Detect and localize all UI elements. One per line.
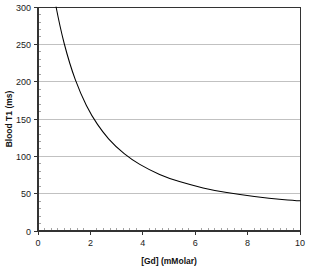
y-tick-label-200: 200: [16, 77, 31, 87]
x-tick-label-0: 0: [35, 238, 40, 248]
x-tick-label-4: 4: [140, 238, 145, 248]
y-axis-title: Blood T1 (ms): [4, 91, 14, 148]
x-tick-label-6: 6: [193, 238, 198, 248]
y-tick-label-250: 250: [16, 40, 31, 50]
blood-t1-vs-gd-chart: 300 250 200 150 100 50 0 0 2 4 6 8 10 [G…: [0, 0, 312, 271]
x-axis-title: [Gd] (mMolar): [141, 256, 197, 266]
x-tick-label-2: 2: [88, 238, 93, 248]
y-tick-label-50: 50: [21, 189, 31, 199]
y-tick-label-0: 0: [26, 227, 31, 237]
y-tick-label-300: 300: [16, 3, 31, 13]
y-tick-label-150: 150: [16, 115, 31, 125]
x-tick-label-10: 10: [295, 238, 305, 248]
y-tick-label-100: 100: [16, 152, 31, 162]
x-tick-label-8: 8: [245, 238, 250, 248]
